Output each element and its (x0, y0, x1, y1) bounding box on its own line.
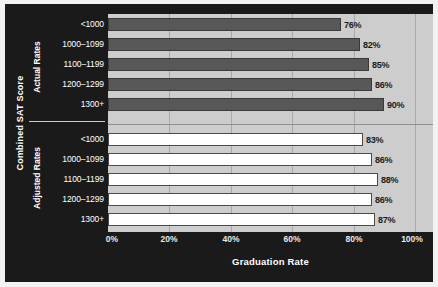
category-label: 1000–1099 (62, 153, 104, 166)
bar-actual-1200-1299: 86% (108, 78, 372, 91)
group-label-adjusted-area: Adjusted Rates (29, 124, 45, 232)
y-axis-title: Combined SAT Score (15, 76, 25, 171)
x-axis-tick-labels: 0% 20% 40% 60% 80% 100% (108, 234, 433, 248)
bar-actual-lt1000: 76% (108, 18, 341, 31)
category-label: 1100–1199 (64, 58, 104, 71)
category-label: 1200–1299 (62, 193, 104, 206)
plot-area: 76% 82% 85% 86% 90% 83% 86% 88% (108, 14, 433, 232)
bar-actual-1100-1199: 85% (108, 58, 369, 71)
bar-value-label: 88% (381, 175, 398, 185)
bar-actual-1300plus: 90% (108, 98, 384, 111)
x-tick-0: 0% (106, 234, 118, 244)
group-label-actual-area: Actual Rates (29, 14, 45, 120)
x-tick-100: 100% (401, 234, 423, 244)
category-label: 1100–1199 (64, 173, 104, 186)
bar-actual-1000-1099: 82% (108, 38, 360, 51)
bar-value-label: 86% (375, 80, 392, 90)
chart-panel: Combined SAT Score Actual Rates Adjusted… (5, 4, 433, 282)
bar-value-label: 85% (372, 60, 389, 70)
category-label: 1200–1299 (62, 78, 104, 91)
y-axis-category-labels: <1000 1000–1099 1100–1199 1200–1299 1300… (53, 14, 104, 232)
bar-value-label: 90% (387, 100, 404, 110)
category-label: 1300+ (81, 213, 104, 226)
bar-value-label: 76% (344, 20, 361, 30)
bar-adjusted-1200-1299: 86% (108, 193, 372, 206)
bar-value-label: 86% (375, 195, 392, 205)
x-tick-80: 80% (345, 234, 362, 244)
group-label-actual: Actual Rates (32, 41, 42, 93)
group-label-adjusted: Adjusted Rates (32, 147, 42, 209)
y-axis-title-area: Combined SAT Score (12, 14, 28, 232)
x-tick-20: 20% (160, 234, 177, 244)
bar-value-label: 82% (363, 40, 380, 50)
bar-adjusted-1300plus: 87% (108, 213, 375, 226)
x-tick-40: 40% (222, 234, 239, 244)
bar-adjusted-1000-1099: 86% (108, 153, 372, 166)
x-tick-60: 60% (283, 234, 300, 244)
bar-adjusted-1100-1199: 88% (108, 173, 378, 186)
bar-value-label: 83% (366, 135, 383, 145)
bar-value-label: 87% (378, 215, 395, 225)
gridline-100 (415, 14, 416, 232)
bar-value-label: 86% (375, 155, 392, 165)
category-label: <1000 (81, 133, 104, 146)
x-axis-title: Graduation Rate (108, 256, 433, 267)
group-divider-line (108, 124, 433, 125)
category-label: <1000 (81, 18, 104, 31)
chart-container: Combined SAT Score Actual Rates Adjusted… (0, 0, 438, 287)
bar-adjusted-lt1000: 83% (108, 133, 363, 146)
category-label: 1000–1099 (62, 38, 104, 51)
category-label: 1300+ (81, 98, 104, 111)
